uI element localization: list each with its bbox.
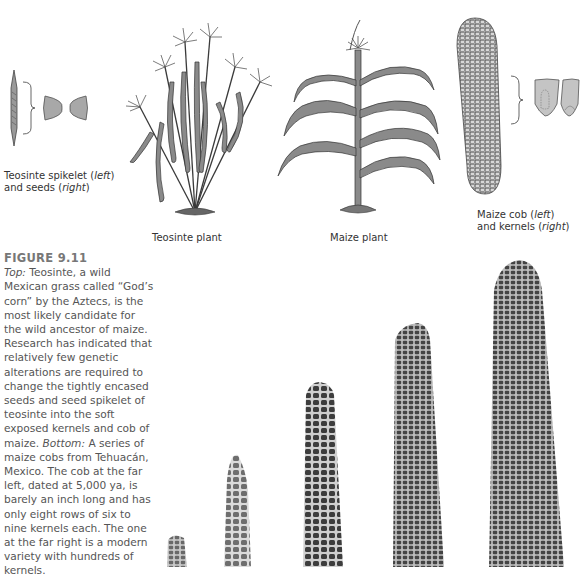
cob-4 bbox=[393, 323, 444, 567]
cob-1-ancient bbox=[167, 535, 187, 567]
cob-2 bbox=[224, 455, 251, 567]
cob-3 bbox=[303, 382, 343, 567]
cob-5-modern bbox=[489, 260, 564, 567]
